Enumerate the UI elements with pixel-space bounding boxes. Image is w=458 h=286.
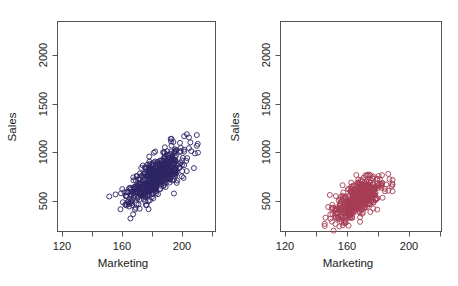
y-tick-label-1000-left: 1000 — [37, 140, 49, 164]
y-tick-label-1500-left: 1500 — [37, 92, 49, 116]
y-tick-label-2000-left: 2000 — [37, 43, 49, 67]
x-tick-label-120-right: 120 — [276, 240, 294, 252]
x-tick-label-200-left: 200 — [173, 240, 191, 252]
y-tick-label-500-right: 500 — [260, 192, 272, 210]
scatter-panel-left: 2000 1500 1000 500 Sales 120 160 200 Mar… — [0, 0, 229, 286]
scatter-panel-right: 2000 1500 1000 500 Sales 120 160 200 Mar… — [229, 0, 458, 286]
x-axis-title-right: Marketing — [323, 257, 374, 269]
y-tick-label-1000-right: 1000 — [260, 140, 272, 164]
y-tick-label-2000-right: 2000 — [260, 43, 272, 67]
x-tick-label-200-right: 200 — [400, 240, 418, 252]
panel-left-svg: 2000 1500 1000 500 Sales 120 160 200 Mar… — [0, 0, 229, 286]
y-tick-label-1500-right: 1500 — [260, 92, 272, 116]
y-axis-title-left: Sales — [6, 112, 18, 141]
x-tick-label-160-right: 160 — [338, 240, 356, 252]
y-axis-title-right: Sales — [229, 112, 241, 141]
x-axis-title-left: Marketing — [98, 257, 149, 269]
scatter-figure: 2000 1500 1000 500 Sales 120 160 200 Mar… — [0, 0, 458, 286]
x-tick-label-160-left: 160 — [113, 240, 131, 252]
panel-right-svg: 2000 1500 1000 500 Sales 120 160 200 Mar… — [229, 0, 458, 286]
x-tick-label-120-left: 120 — [53, 240, 71, 252]
y-tick-label-500-left: 500 — [37, 192, 49, 210]
